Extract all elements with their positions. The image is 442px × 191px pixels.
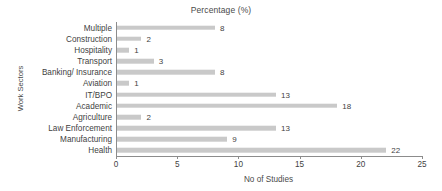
bar-row: Agriculture2 (116, 111, 422, 122)
y-axis-tick-label: Aviation (83, 79, 112, 88)
y-axis-tick-label: Academic (76, 101, 112, 110)
bar-value-label: 18 (342, 101, 351, 110)
bar (117, 103, 337, 108)
bar-value-label: 2 (146, 34, 150, 43)
bar-value-label: 1 (134, 79, 138, 88)
bar (117, 25, 215, 30)
bar-row: Construction2 (116, 33, 422, 44)
chart-figure: Percentage (%) Work Sectors Multiple8Con… (0, 0, 442, 191)
bar (117, 59, 154, 64)
bar-value-label: 13 (281, 90, 290, 99)
bar (117, 115, 141, 120)
bar (117, 126, 276, 131)
x-axis-tick-mark (177, 156, 178, 159)
bar-value-label: 3 (159, 57, 163, 66)
bar-value-label: 8 (220, 68, 224, 77)
bar-value-label: 13 (281, 124, 290, 133)
bar-row: Banking/ Insurance8 (116, 67, 422, 78)
y-axis-tick-label: Manufacturing (60, 135, 112, 144)
plot-area: Multiple8Construction2Hospitality1Transp… (116, 22, 422, 156)
y-axis-tick-label: Health (88, 146, 112, 155)
bar-row: IT/BPO13 (116, 89, 422, 100)
bar (117, 92, 276, 97)
x-axis-title: No of Studies (115, 175, 422, 184)
x-axis-line (116, 156, 422, 157)
y-axis-tick-label: Agriculture (73, 112, 112, 121)
bar-row: Multiple8 (116, 22, 422, 33)
chart-title: Percentage (%) (0, 5, 442, 15)
bar-value-label: 8 (220, 23, 224, 32)
bar-row: Health22 (116, 145, 422, 156)
y-axis-title: Work Sectors (17, 65, 26, 110)
bar-row: Manufacturing9 (116, 134, 422, 145)
bar (117, 70, 215, 75)
x-axis-tick-label: 5 (175, 160, 180, 169)
x-axis-tick-label: 0 (114, 160, 119, 169)
bar-row: Law Enforcement13 (116, 123, 422, 134)
y-axis-tick-label: Banking/ Insurance (42, 68, 112, 77)
bar-row: Aviation1 (116, 78, 422, 89)
x-axis-tick-mark (361, 156, 362, 159)
y-axis-tick-label: Construction (66, 34, 112, 43)
bar-value-label: 2 (146, 112, 150, 121)
bar (117, 36, 141, 41)
bar (117, 81, 129, 86)
y-axis-tick-label: Multiple (84, 23, 112, 32)
y-axis-tick-label: IT/BPO (85, 90, 112, 99)
y-axis-title-container: Work Sectors (14, 20, 28, 156)
y-axis-tick-label: Hospitality (74, 45, 112, 54)
y-axis-tick-label: Law Enforcement (48, 124, 112, 133)
y-axis-tick-label: Transport (77, 57, 112, 66)
bar (117, 137, 227, 142)
bar-row: Hospitality1 (116, 44, 422, 55)
x-axis-tick-label: 25 (417, 160, 426, 169)
bar (117, 148, 386, 153)
bar-value-label: 9 (232, 135, 236, 144)
x-axis-tick-label: 15 (295, 160, 304, 169)
bar-value-label: 22 (391, 146, 400, 155)
bar-row: Academic18 (116, 100, 422, 111)
x-axis-tick-label: 20 (356, 160, 365, 169)
x-axis-tick-label: 10 (234, 160, 243, 169)
x-axis-tick-mark (116, 156, 117, 159)
x-axis-tick-mark (422, 156, 423, 159)
bar (117, 48, 129, 53)
x-axis-tick-mark (238, 156, 239, 159)
bar-row: Transport3 (116, 56, 422, 67)
bar-value-label: 1 (134, 45, 138, 54)
x-axis-tick-mark (300, 156, 301, 159)
